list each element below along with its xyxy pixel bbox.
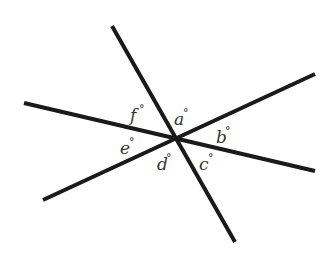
line-up-right xyxy=(43,74,315,200)
angle-label-e: e ° xyxy=(120,136,135,158)
degree-symbol: ° xyxy=(166,152,172,165)
angle-label-a: a ° xyxy=(174,107,189,129)
angle-label-b: b ° xyxy=(216,125,231,147)
degree-symbol: ° xyxy=(183,107,189,120)
angle-diagram: f ° a ° b ° c ° d ° e ° xyxy=(0,0,335,258)
angle-letter: f xyxy=(128,105,139,125)
degree-symbol: ° xyxy=(208,152,214,165)
degree-symbol: ° xyxy=(139,103,145,116)
degree-symbol: ° xyxy=(129,136,135,149)
angle-label-f: f ° xyxy=(128,103,145,125)
angle-label-c: c ° xyxy=(199,152,214,174)
angle-label-d: d ° xyxy=(157,152,172,174)
degree-symbol: ° xyxy=(225,125,231,138)
